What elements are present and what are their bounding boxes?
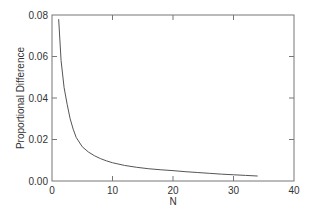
line-chart: 010203040 0.000.020.040.060.08 N Proport…: [0, 0, 312, 222]
y-tick-label: 0.08: [29, 10, 49, 21]
x-tick-label: 10: [107, 185, 119, 196]
axis-ticks: [52, 15, 294, 181]
y-tick-label: 0.02: [29, 134, 49, 145]
x-tick-label: 40: [288, 185, 300, 196]
y-tick-labels: 0.000.020.040.060.08: [29, 10, 49, 187]
y-tick-label: 0.04: [29, 93, 49, 104]
x-tick-label: 20: [167, 185, 179, 196]
x-tick-label: 30: [228, 185, 240, 196]
y-tick-label: 0.06: [29, 51, 49, 62]
x-axis-label: N: [169, 196, 176, 207]
y-tick-label: 0.00: [29, 176, 49, 187]
series-line: [59, 19, 258, 176]
plot-frame: [52, 15, 294, 181]
series-group: [59, 19, 258, 176]
x-tick-label: 0: [49, 185, 55, 196]
y-axis-label: Proportional Difference: [15, 47, 26, 150]
x-tick-labels: 010203040: [49, 185, 300, 196]
